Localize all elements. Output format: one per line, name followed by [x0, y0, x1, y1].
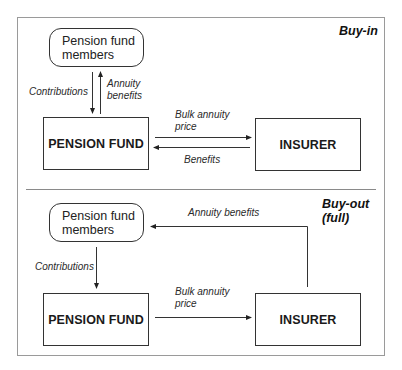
bulk-annuity-line2: price — [175, 121, 229, 133]
insurer-text: INSURER — [280, 138, 337, 152]
buy-out-annuity-benefits-label: Annuity benefits — [188, 207, 259, 219]
buy-out-title: Buy-out (full) — [322, 197, 369, 225]
annuity-benefits-text: Annuity benefits — [188, 207, 259, 219]
pension-fund-text: PENSION FUND — [48, 313, 144, 327]
members-label-line1: Pension fund — [62, 34, 143, 48]
insurer-text: INSURER — [280, 313, 337, 327]
buy-out-title-line1: Buy-out — [322, 197, 369, 211]
members-label-line1: Pension fund — [62, 209, 143, 223]
bulk-annuity-line1: Bulk annuity — [175, 286, 229, 298]
buy-in-insurer-box: INSURER — [255, 118, 361, 171]
buy-out-insurer-box: INSURER — [255, 293, 361, 346]
buy-out-members-box: Pension fund members — [49, 203, 144, 242]
buy-out-title-line2: (full) — [322, 211, 369, 225]
buy-in-benefits-label: Benefits — [184, 154, 220, 166]
buy-in-title: Buy-in — [339, 24, 378, 38]
buy-in-title-text: Buy-in — [339, 24, 378, 38]
contributions-text: Contributions — [35, 261, 94, 273]
buy-in-bulk-annuity-price-label: Bulk annuity price — [175, 109, 229, 133]
section-divider — [26, 189, 376, 190]
members-label-line2: members — [62, 223, 143, 237]
buy-out-bulk-annuity-price-label: Bulk annuity price — [175, 286, 229, 310]
annuity-text-line2: benefits — [107, 90, 142, 102]
bulk-annuity-line1: Bulk annuity — [175, 109, 229, 121]
benefits-text: Benefits — [184, 154, 220, 166]
pension-fund-text: PENSION FUND — [48, 137, 144, 151]
buy-in-contributions-label: Contributions — [29, 86, 88, 98]
buy-out-pension-fund-box: PENSION FUND — [43, 293, 149, 346]
buy-in-members-box: Pension fund members — [49, 28, 144, 67]
annuity-text-line1: Annuity — [107, 78, 142, 90]
buy-in-annuity-benefits-label: Annuity benefits — [107, 78, 142, 102]
bulk-annuity-line2: price — [175, 298, 229, 310]
contributions-text: Contributions — [29, 86, 88, 98]
members-label-line2: members — [62, 48, 143, 62]
buy-in-pension-fund-box: PENSION FUND — [43, 117, 149, 170]
buy-out-contributions-label: Contributions — [35, 261, 94, 273]
